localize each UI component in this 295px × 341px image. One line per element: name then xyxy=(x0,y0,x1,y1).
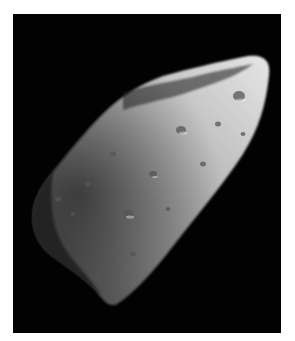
asteroid-illustration xyxy=(13,14,281,333)
asteroid-photo xyxy=(13,14,281,333)
